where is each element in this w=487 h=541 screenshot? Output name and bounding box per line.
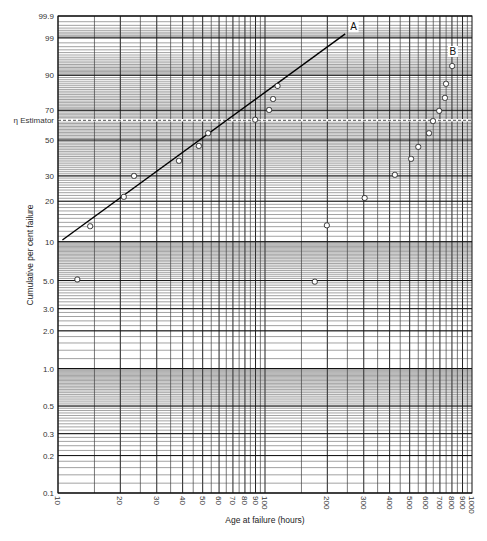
x-tick-label: 600 xyxy=(421,496,430,510)
x-tick-label: 100 xyxy=(260,496,269,510)
y-tick-label: 99 xyxy=(45,34,54,43)
data-point-middle xyxy=(324,223,329,228)
y-tick-label: 3.0 xyxy=(43,305,55,314)
x-tick-label: 800 xyxy=(447,496,456,510)
x-tick-label: 60 xyxy=(214,496,223,505)
y-tick-label: 10 xyxy=(45,238,54,247)
data-point-A xyxy=(75,277,80,282)
y-tick-label: 70 xyxy=(45,106,54,115)
x-tick-label: 300 xyxy=(359,496,368,510)
data-point-B xyxy=(392,172,397,177)
data-point-B xyxy=(416,144,421,149)
data-point-A xyxy=(253,117,258,122)
data-point-A xyxy=(121,194,126,199)
y-axis-label: Cumulative per cent failure xyxy=(25,204,35,305)
x-tick-label: 90 xyxy=(251,496,260,505)
annotations: AB xyxy=(349,21,458,57)
data-point-A xyxy=(271,97,276,102)
y-axis-tick-labels: 0.10.20.30.51.02.03.05.01020305070909999… xyxy=(38,12,54,498)
x-tick-label: 30 xyxy=(152,496,161,505)
data-point-A xyxy=(176,158,181,163)
y-tick-label: 30 xyxy=(45,172,54,181)
y-tick-label: 0.2 xyxy=(43,452,55,461)
x-tick-label: 400 xyxy=(385,496,394,510)
x-tick-label: 40 xyxy=(178,496,187,505)
y-tick-label: 90 xyxy=(45,71,54,80)
data-point-B xyxy=(442,95,447,100)
x-tick-label: 700 xyxy=(435,496,444,510)
data-point-A xyxy=(267,107,272,112)
data-point-B xyxy=(427,131,432,136)
weibull-probability-chart: 0.10.20.30.51.02.03.05.01020305070909999… xyxy=(0,0,487,541)
y-tick-label: 50 xyxy=(45,136,54,145)
x-tick-label: 20 xyxy=(115,496,124,505)
x-tick-label: 10 xyxy=(53,496,62,505)
x-tick-label: 200 xyxy=(322,496,331,510)
data-point-A xyxy=(196,143,201,148)
data-point-B xyxy=(437,108,442,113)
y-tick-label: 2.0 xyxy=(43,327,55,336)
y-tick-label: 0.5 xyxy=(43,402,55,411)
x-axis-tick-labels: 1020304050607080901002003004005006007008… xyxy=(53,496,476,514)
data-point-B xyxy=(444,81,449,86)
data-point-B xyxy=(430,119,435,124)
y-tick-label: 99.9 xyxy=(38,12,54,21)
eta-estimator-label: η Estimator xyxy=(14,116,55,125)
x-axis-label: Age at failure (hours) xyxy=(225,515,305,525)
x-tick-label: 80 xyxy=(240,496,249,505)
data-point-A xyxy=(206,131,211,136)
data-point-middle xyxy=(312,279,317,284)
data-point-A xyxy=(275,83,280,88)
y-tick-label: 20 xyxy=(45,197,54,206)
y-tick-label: 0.1 xyxy=(43,489,55,498)
data-point-B xyxy=(409,156,414,161)
x-tick-label: 1000 xyxy=(467,496,476,514)
series-label: A xyxy=(350,21,357,32)
data-point-A xyxy=(132,173,137,178)
chart-grid xyxy=(58,16,472,493)
x-tick-label: 70 xyxy=(228,496,237,505)
y-tick-label: 0.3 xyxy=(43,430,55,439)
y-tick-label: 1.0 xyxy=(43,365,55,374)
x-tick-label: 50 xyxy=(198,496,207,505)
y-tick-label: 5.0 xyxy=(43,277,55,286)
x-tick-label: 500 xyxy=(405,496,414,510)
data-point-B xyxy=(450,64,455,69)
x-tick-label: 900 xyxy=(458,496,467,510)
data-point-middle xyxy=(362,195,367,200)
data-point-A xyxy=(88,224,93,229)
series-label: B xyxy=(450,46,457,57)
